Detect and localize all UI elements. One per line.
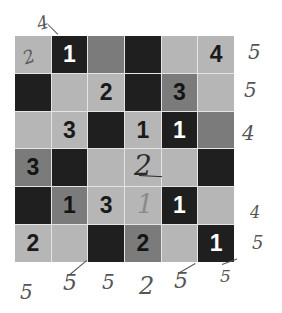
cell-r1-c4[interactable] bbox=[125, 36, 161, 73]
cell-r1-c6[interactable]: 4 bbox=[198, 36, 234, 73]
cell-r3-c4[interactable]: 1 bbox=[125, 112, 161, 149]
cell-r4-c4[interactable]: 2 bbox=[125, 149, 161, 186]
cell-number: 1 bbox=[136, 119, 149, 142]
cell-r6-c2[interactable] bbox=[52, 225, 88, 262]
bottom-annotation-col1: 5 bbox=[20, 282, 33, 302]
bottom-annotation-col5: 5 bbox=[174, 270, 188, 292]
bottom-annotation-col6: 5 bbox=[220, 268, 231, 285]
cell-r5-c1[interactable] bbox=[15, 187, 51, 224]
bottom-annotation-col3: 5 bbox=[102, 272, 115, 292]
cell-r1-c1[interactable]: 2 bbox=[15, 36, 51, 73]
cell-r6-c6[interactable]: 1 bbox=[198, 225, 234, 262]
right-annotation-row6: 5 bbox=[252, 234, 263, 252]
cell-number: 3 bbox=[26, 156, 39, 179]
cell-r2-c2[interactable] bbox=[52, 74, 88, 111]
puzzle-grid: 2 1 4 2 3 3 1 1 3 2 1 3 1 1 2 2 1 bbox=[15, 36, 234, 262]
cell-number: 1 bbox=[63, 194, 76, 217]
handwritten-mark: 1 bbox=[137, 191, 154, 217]
top-annotation: 4 bbox=[35, 13, 51, 33]
cell-r3-c5[interactable]: 1 bbox=[162, 112, 198, 149]
cell-number: 2 bbox=[100, 81, 113, 104]
bottom-annotation-col2: 5 bbox=[63, 272, 77, 294]
cell-r5-c3[interactable]: 3 bbox=[88, 187, 124, 224]
cell-r4-c1[interactable]: 3 bbox=[15, 149, 51, 186]
cell-number: 4 bbox=[210, 43, 223, 66]
cell-r2-c4[interactable] bbox=[125, 74, 161, 111]
cell-r2-c1[interactable] bbox=[15, 74, 51, 111]
cell-number: 2 bbox=[136, 232, 149, 255]
cell-r5-c2[interactable]: 1 bbox=[52, 187, 88, 224]
cell-r3-c1[interactable] bbox=[15, 112, 51, 149]
right-annotation-row5: 4 bbox=[250, 205, 260, 221]
cell-r6-c4[interactable]: 2 bbox=[125, 225, 161, 262]
cell-r5-c4[interactable]: 1 bbox=[125, 187, 161, 224]
cell-r3-c6[interactable] bbox=[198, 112, 234, 149]
cell-r1-c5[interactable] bbox=[162, 36, 198, 73]
cell-r3-c2[interactable]: 3 bbox=[52, 112, 88, 149]
cell-r1-c2[interactable]: 1 bbox=[52, 36, 88, 73]
cell-number: 3 bbox=[100, 194, 113, 217]
cell-r2-c5[interactable]: 3 bbox=[162, 74, 198, 111]
cell-r4-c5[interactable] bbox=[162, 149, 198, 186]
cell-number: 2 bbox=[26, 232, 39, 255]
cell-number: 1 bbox=[173, 119, 186, 142]
cell-r2-c6[interactable] bbox=[198, 74, 234, 111]
handwritten-mark: 2 bbox=[20, 47, 37, 68]
cell-r6-c3[interactable] bbox=[88, 225, 124, 262]
cell-r1-c3[interactable] bbox=[88, 36, 124, 73]
cell-r4-c6[interactable] bbox=[198, 149, 234, 186]
right-annotation-row1: 5 bbox=[248, 42, 261, 62]
handwritten-stroke bbox=[70, 260, 87, 275]
cell-number: 3 bbox=[173, 81, 186, 104]
cell-number: 1 bbox=[173, 194, 186, 217]
cell-r6-c1[interactable]: 2 bbox=[15, 225, 51, 262]
cell-r4-c3[interactable] bbox=[88, 149, 124, 186]
cell-r5-c5[interactable]: 1 bbox=[162, 187, 198, 224]
cell-r4-c2[interactable] bbox=[52, 149, 88, 186]
right-annotation-row2: 5 bbox=[244, 80, 257, 100]
bottom-annotation-col4: 2 bbox=[139, 274, 154, 298]
cell-number: 1 bbox=[210, 232, 223, 255]
cell-number: 3 bbox=[63, 119, 76, 142]
cell-r2-c3[interactable]: 2 bbox=[88, 74, 124, 111]
cell-r5-c6[interactable] bbox=[198, 187, 234, 224]
right-annotation-row3: 4 bbox=[242, 123, 255, 143]
cell-r3-c3[interactable] bbox=[88, 112, 124, 149]
cell-number: 1 bbox=[63, 43, 76, 66]
cell-r6-c5[interactable] bbox=[162, 225, 198, 262]
